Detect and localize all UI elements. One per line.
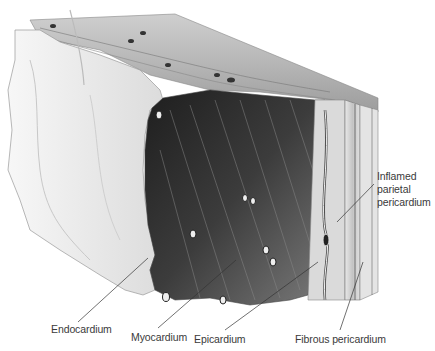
label-endocardium: Endocardium [51,323,112,336]
pericardium-layers [308,100,378,300]
myocardium-section [145,90,325,305]
label-inflamed-parietal-pericardium: Inflamed parietal pericardium [377,170,435,209]
label-fibrous-pericardium: Fibrous pericardium [295,333,386,346]
label-epicardium: Epicardium [194,333,246,346]
label-myocardium: Myocardium [131,331,187,344]
